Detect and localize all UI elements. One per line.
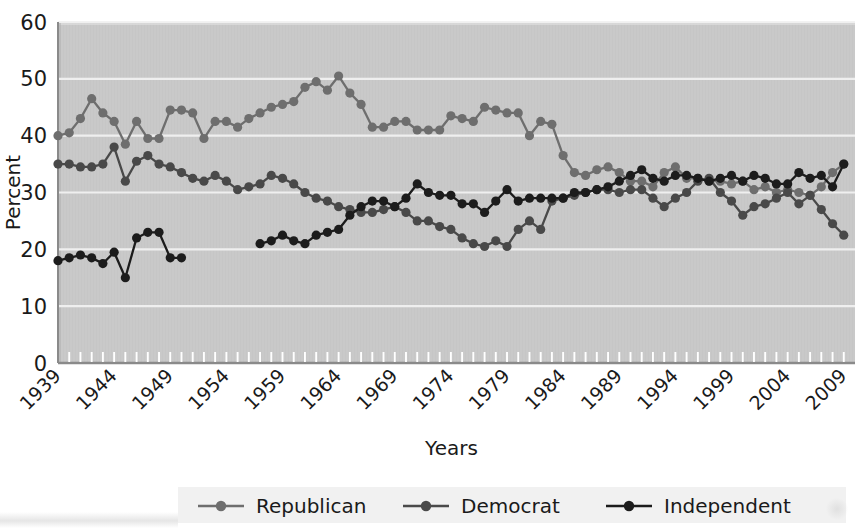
legend-label: Independent xyxy=(664,494,791,518)
data-point xyxy=(603,182,612,191)
data-point xyxy=(334,225,343,234)
data-point xyxy=(828,168,837,177)
data-point xyxy=(143,134,152,143)
data-point xyxy=(143,228,152,237)
data-point xyxy=(772,194,781,203)
data-point xyxy=(368,208,377,217)
data-point xyxy=(794,188,803,197)
data-point xyxy=(502,185,511,194)
data-point xyxy=(469,239,478,248)
data-point xyxy=(132,233,141,242)
data-point xyxy=(334,71,343,80)
data-point xyxy=(458,114,467,123)
data-point xyxy=(76,162,85,171)
data-point xyxy=(637,185,646,194)
data-point xyxy=(289,97,298,106)
data-point xyxy=(312,77,321,86)
data-point xyxy=(491,105,500,114)
data-point xyxy=(727,196,736,205)
data-point xyxy=(413,125,422,134)
data-point xyxy=(278,231,287,240)
data-point xyxy=(749,171,758,180)
data-point xyxy=(615,168,624,177)
data-point xyxy=(469,117,478,126)
data-point xyxy=(300,188,309,197)
data-point xyxy=(390,117,399,126)
data-point xyxy=(603,162,612,171)
data-point xyxy=(615,188,624,197)
data-point xyxy=(738,177,747,186)
data-point xyxy=(660,168,669,177)
data-point xyxy=(749,185,758,194)
data-point xyxy=(547,194,556,203)
y-tick-label: 10 xyxy=(20,295,47,319)
data-point xyxy=(233,185,242,194)
data-point xyxy=(581,188,590,197)
data-point xyxy=(166,162,175,171)
data-point xyxy=(188,108,197,117)
data-point xyxy=(300,83,309,92)
data-point xyxy=(154,159,163,168)
data-point xyxy=(514,225,523,234)
data-point xyxy=(334,202,343,211)
data-point xyxy=(783,188,792,197)
data-point xyxy=(491,236,500,245)
data-point xyxy=(491,196,500,205)
y-tick-label: 40 xyxy=(20,124,47,148)
data-point xyxy=(312,231,321,240)
data-point xyxy=(660,202,669,211)
data-point xyxy=(682,171,691,180)
y-tick-label: 20 xyxy=(20,238,47,262)
data-point xyxy=(368,123,377,132)
data-point xyxy=(772,179,781,188)
data-point xyxy=(615,177,624,186)
data-point xyxy=(806,174,815,183)
data-point xyxy=(312,194,321,203)
data-point xyxy=(222,177,231,186)
data-point xyxy=(401,117,410,126)
data-point xyxy=(132,117,141,126)
data-point xyxy=(154,228,163,237)
data-point xyxy=(761,174,770,183)
data-point xyxy=(323,86,332,95)
data-point xyxy=(446,191,455,200)
data-point xyxy=(278,174,287,183)
data-point xyxy=(255,179,264,188)
data-point xyxy=(177,168,186,177)
data-point xyxy=(76,114,85,123)
data-point xyxy=(199,134,208,143)
data-point xyxy=(110,142,119,151)
data-point xyxy=(222,117,231,126)
data-point xyxy=(188,174,197,183)
data-point xyxy=(267,103,276,112)
data-point xyxy=(98,259,107,268)
legend-marker xyxy=(421,501,431,511)
data-point xyxy=(727,179,736,188)
data-point xyxy=(525,194,534,203)
data-point xyxy=(345,88,354,97)
data-point xyxy=(648,182,657,191)
data-point xyxy=(289,236,298,245)
data-point xyxy=(581,171,590,180)
data-point xyxy=(480,103,489,112)
data-point xyxy=(413,179,422,188)
legend: RepublicanDemocratIndependent xyxy=(178,487,846,523)
data-point xyxy=(244,114,253,123)
data-point xyxy=(817,171,826,180)
data-point xyxy=(547,120,556,129)
data-point xyxy=(783,179,792,188)
data-point xyxy=(536,117,545,126)
data-point xyxy=(693,174,702,183)
data-point xyxy=(87,253,96,262)
data-point xyxy=(65,253,74,262)
y-tick-label: 50 xyxy=(20,67,47,91)
data-point xyxy=(323,228,332,237)
data-point xyxy=(390,202,399,211)
data-point xyxy=(98,159,107,168)
data-point xyxy=(132,157,141,166)
data-point xyxy=(525,131,534,140)
data-point xyxy=(110,248,119,257)
data-point xyxy=(660,177,669,186)
data-point xyxy=(143,151,152,160)
data-point xyxy=(255,239,264,248)
